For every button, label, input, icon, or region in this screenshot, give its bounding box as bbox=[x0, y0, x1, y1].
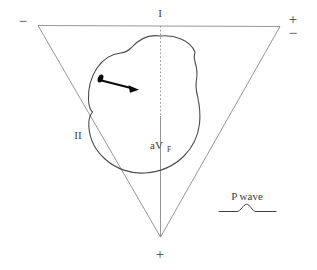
heart-outline-path bbox=[88, 36, 199, 174]
pwave-trace-group bbox=[219, 204, 276, 211]
triangle-left-edge bbox=[38, 26, 161, 238]
polarity-bottom-plus: + bbox=[156, 246, 164, 262]
mean-vector-arrow bbox=[97, 74, 139, 93]
pwave-caption: P wave bbox=[231, 190, 263, 202]
lead-aVF-label-subscript: F bbox=[167, 145, 171, 154]
pwave-trace-path bbox=[219, 204, 276, 211]
triangle-right-edge bbox=[161, 27, 281, 238]
vector-arrowhead bbox=[129, 85, 140, 93]
triangle-top-edge bbox=[38, 26, 280, 27]
lead-II-label: II bbox=[74, 129, 82, 141]
einthoven-diagram-svg: I II aV F − + − + P wave bbox=[0, 0, 317, 270]
vector-shaft bbox=[102, 81, 132, 89]
polarity-top-left-minus: − bbox=[19, 13, 27, 29]
ecg-einthoven-figure: I II aV F − + − + P wave bbox=[0, 0, 317, 270]
polarity-top-right-minus: − bbox=[289, 25, 297, 41]
lead-aVF-label-main: aV bbox=[150, 139, 163, 151]
lead-I-label: I bbox=[158, 7, 162, 19]
